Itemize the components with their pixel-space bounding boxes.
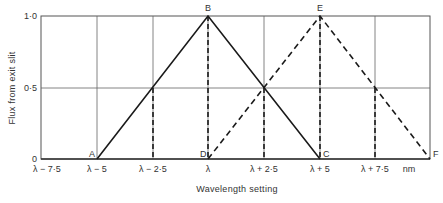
point-label-c: C (323, 149, 330, 159)
flux-vs-wavelength-chart: A B C D E F 1·0 0·5 0 λ − 7·5 λ − 5 λ − … (0, 0, 443, 203)
x-unit-label: nm (403, 164, 416, 174)
y-tick-1-0: 1·0 (24, 11, 37, 21)
x-tick-minus-2-5: λ − 2·5 (139, 164, 167, 174)
vertical-gridlines (97, 16, 375, 159)
plot-frame (41, 16, 430, 159)
y-tick-0: 0 (32, 154, 37, 164)
x-tick-minus-5: λ − 5 (87, 164, 107, 174)
y-axis-title: Flux from exit slit (7, 51, 17, 124)
point-label-e: E (317, 3, 323, 13)
x-axis-title: Wavelength setting (196, 184, 278, 194)
point-label-a: A (89, 149, 95, 159)
point-label-d: D (200, 149, 207, 159)
point-label-b: B (205, 3, 211, 13)
x-tick-plus-5: λ + 5 (310, 164, 330, 174)
point-label-f: F (433, 149, 439, 159)
x-tick-minus-7-5: λ − 7·5 (33, 164, 61, 174)
x-tick-plus-2-5: λ + 2·5 (250, 164, 278, 174)
x-tick-plus-7-5: λ + 7·5 (361, 164, 389, 174)
x-tick-lambda: λ (206, 164, 211, 174)
y-tick-0-5: 0·5 (24, 83, 37, 93)
dashed-triangle-series (208, 16, 430, 159)
